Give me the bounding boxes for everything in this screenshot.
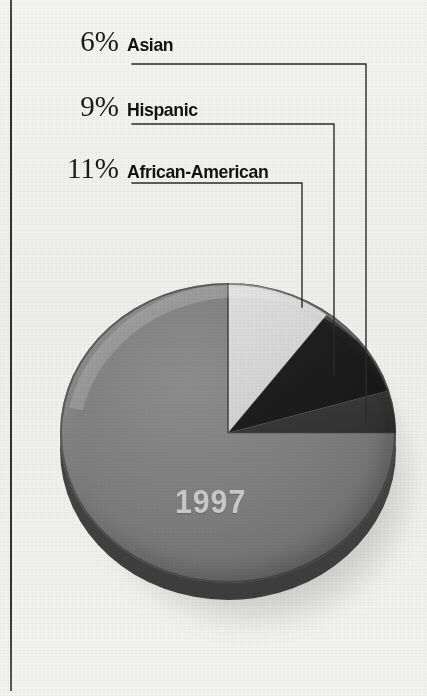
callout-asian: 6% Asian bbox=[57, 27, 177, 56]
callout-hispanic-percent: 9% bbox=[45, 92, 119, 121]
callout-asian-percent: 6% bbox=[57, 27, 119, 56]
callout-african-american-label: African-American bbox=[127, 162, 268, 181]
leader-line-aa bbox=[132, 183, 302, 307]
callout-african-american-percent: 11% bbox=[33, 154, 119, 183]
callout-asian-label: Asian bbox=[127, 35, 173, 54]
callout-african-american: 11% African-American bbox=[33, 154, 279, 183]
callout-hispanic: 9% Hispanic bbox=[45, 92, 203, 121]
callout-hispanic-label: Hispanic bbox=[127, 100, 198, 119]
figure-canvas: 1997 6% Asian 9% Hispanic 11% African-Am… bbox=[0, 0, 427, 696]
